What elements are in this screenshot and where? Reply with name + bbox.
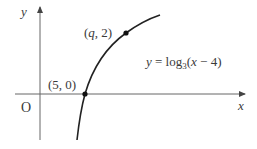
point-5-0 xyxy=(82,91,87,96)
y-axis-label: y xyxy=(19,4,27,19)
x-axis-label: x xyxy=(237,98,244,113)
point-label-q-2: (q, 2) xyxy=(84,25,112,40)
curve-equation: y = log3(x − 4) xyxy=(144,54,222,71)
point-label-5-0: (5, 0) xyxy=(48,77,76,92)
point-q-2 xyxy=(123,30,128,35)
log-graph-diagram: y x O (5, 0) (q, 2) y = log3(x − 4) xyxy=(0,0,257,149)
origin-label: O xyxy=(21,100,31,115)
